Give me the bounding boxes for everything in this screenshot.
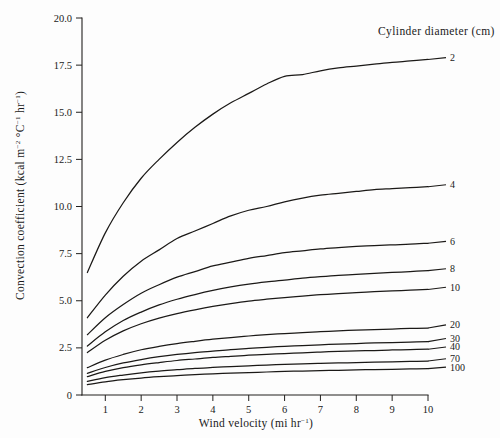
- chart-canvas: 02.55.07.510.012.515.017.520.0 123456789…: [0, 0, 500, 438]
- series-leader-lines: [428, 58, 446, 369]
- x-tick-label: 1: [103, 404, 108, 415]
- y-tick-label: 17.5: [54, 60, 72, 71]
- series-label: 40: [450, 341, 460, 352]
- series-curve: [87, 59, 428, 272]
- y-label-sup-3: −1: [14, 95, 22, 103]
- series-curve: [87, 342, 428, 374]
- x-tick-label: 10: [423, 404, 434, 415]
- x-tick-label: 5: [246, 404, 251, 415]
- y-label-part-3: hr: [14, 103, 26, 116]
- x-tick-label: 2: [139, 404, 144, 415]
- x-label-main: Wind velocity (mi hr: [199, 417, 301, 430]
- y-axis-label: Convection coefficient (kcal m−2 °C−1 hr…: [14, 91, 27, 300]
- series-curve: [87, 187, 428, 318]
- x-axis-ticks: 12345678910: [103, 395, 434, 415]
- plot-axes: [82, 18, 428, 395]
- series-leader-line: [428, 325, 446, 328]
- series-label: 8: [450, 263, 455, 274]
- series-leader-line: [428, 367, 446, 369]
- x-axis-label: Wind velocity (mi hr−1): [199, 417, 314, 430]
- series-label: 2: [450, 52, 455, 63]
- y-label-part-1: Convection coefficient (kcal m: [14, 148, 27, 300]
- y-tick-label: 10.0: [54, 201, 72, 212]
- y-tick-label: 2.5: [59, 342, 72, 353]
- y-tick-label: 0: [67, 390, 72, 401]
- series-label: 6: [450, 236, 455, 247]
- y-tick-label: 15.0: [54, 107, 72, 118]
- y-tick-label: 20.0: [54, 13, 72, 24]
- series-leader-line: [428, 338, 446, 341]
- x-tick-label: 3: [174, 404, 179, 415]
- data-curves: [87, 59, 428, 384]
- series-leader-line: [428, 359, 446, 361]
- series-curve: [87, 243, 428, 334]
- series-label: 10: [450, 282, 460, 293]
- y-tick-label: 7.5: [59, 248, 72, 259]
- series-leader-line: [428, 269, 446, 271]
- x-tick-label: 8: [354, 404, 359, 415]
- series-leader-line: [428, 241, 446, 243]
- series-curve: [87, 369, 428, 385]
- series-curve: [87, 271, 428, 346]
- series-leader-line: [428, 347, 446, 349]
- y-label-part-4: ): [14, 91, 27, 95]
- y-label-sup-1: −2: [14, 140, 22, 148]
- series-leader-line: [428, 287, 446, 289]
- series-leader-line: [428, 58, 446, 60]
- y-axis-ticks: 02.55.07.510.012.515.017.520.0: [54, 13, 82, 401]
- y-tick-label: 12.5: [54, 154, 72, 165]
- x-tick-label: 9: [390, 404, 395, 415]
- x-label-tail: ): [309, 417, 313, 430]
- x-tick-label: 6: [282, 404, 287, 415]
- series-leader-line: [428, 185, 446, 187]
- series-label: 100: [450, 362, 465, 373]
- svg-text:Convection coefficient (kcal m: Convection coefficient (kcal m−2 °C−1 hr…: [14, 91, 27, 300]
- series-labels: 24681020304070100: [450, 52, 465, 373]
- x-label-sup: −1: [301, 417, 309, 425]
- convection-coefficient-chart: 02.55.07.510.012.515.017.520.0 123456789…: [0, 0, 500, 438]
- y-tick-label: 5.0: [59, 295, 72, 306]
- x-tick-label: 4: [210, 404, 216, 415]
- legend-title: Cylinder diameter (cm): [378, 25, 495, 38]
- series-label: 20: [450, 319, 460, 330]
- x-tick-label: 7: [318, 404, 323, 415]
- y-label-part-2: °C: [14, 124, 26, 140]
- y-label-sup-2: −1: [14, 116, 22, 124]
- svg-text:Wind velocity (mi hr−1): Wind velocity (mi hr−1): [199, 417, 314, 430]
- series-label: 4: [450, 179, 455, 190]
